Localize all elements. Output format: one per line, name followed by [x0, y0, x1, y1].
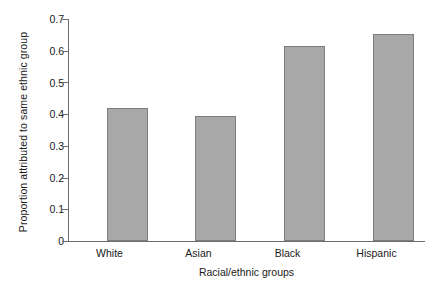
bar-black — [284, 46, 325, 241]
y-tick-label: 0.5 — [38, 78, 64, 88]
y-axis-title: Proportion attributed to same ethnic gro… — [14, 12, 32, 252]
bar-white — [107, 108, 148, 241]
y-tick-label: 0.6 — [38, 46, 64, 56]
y-tick-label: 0.1 — [38, 204, 64, 214]
x-axis-title: Racial/ethnic groups — [68, 266, 425, 278]
plot-area — [68, 19, 425, 241]
y-axis-tick-labels: 0.7 0.6 0.5 0.4 0.3 0.2 0.1 0 — [36, 0, 64, 290]
x-tick-label-black: Black — [256, 247, 319, 259]
bar-chart-figure: Proportion attributed to same ethnic gro… — [0, 0, 446, 290]
x-tick-label-white: White — [78, 247, 141, 259]
y-tick-label: 0.4 — [38, 109, 64, 119]
y-tick-label: 0.7 — [38, 14, 64, 24]
x-axis-line — [68, 241, 425, 242]
bar-hispanic — [373, 34, 414, 241]
y-tick-label: 0.2 — [38, 173, 64, 183]
y-tick-label: 0 — [38, 236, 64, 246]
bar-asian — [195, 116, 236, 241]
x-tick-label-hispanic: Hispanic — [345, 247, 408, 259]
y-tick-label: 0.3 — [38, 141, 64, 151]
x-tick-label-asian: Asian — [167, 247, 230, 259]
